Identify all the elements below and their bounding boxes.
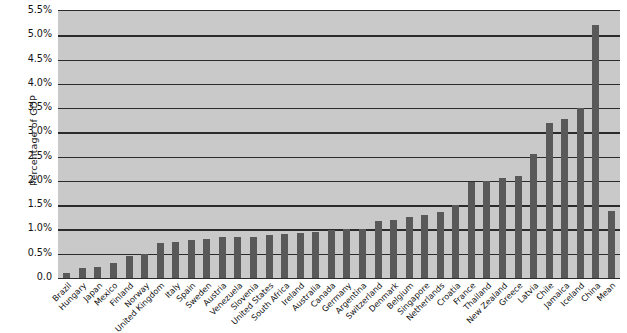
y-axis-tick-label: 2.0%	[28, 175, 52, 185]
y-axis-tick-label: 0.0	[37, 272, 52, 282]
bar[interactable]	[577, 108, 584, 278]
bar[interactable]	[437, 212, 444, 278]
bar[interactable]	[110, 263, 117, 278]
bar[interactable]	[281, 234, 288, 278]
bar[interactable]	[390, 220, 397, 278]
bar[interactable]	[530, 154, 537, 278]
bar-slot	[401, 11, 417, 278]
bar-slot	[386, 11, 402, 278]
bar[interactable]	[219, 237, 226, 278]
bar-slot	[479, 11, 495, 278]
bar[interactable]	[172, 242, 179, 278]
bar[interactable]	[546, 123, 553, 278]
y-axis-tick-label: 1.5%	[28, 199, 52, 209]
bar-slot	[152, 11, 168, 278]
y-axis-tick-label: 3.0%	[28, 127, 52, 137]
bar-slot	[59, 11, 75, 278]
bar[interactable]	[561, 119, 568, 278]
bar[interactable]	[483, 181, 490, 278]
bar[interactable]	[608, 211, 615, 278]
bar[interactable]	[157, 243, 164, 278]
bar[interactable]	[141, 254, 148, 278]
bar[interactable]	[421, 215, 428, 278]
bar-slot	[90, 11, 106, 278]
x-label-slot: Mean	[604, 279, 620, 333]
bar-slot	[215, 11, 231, 278]
bar-slot	[541, 11, 557, 278]
bar[interactable]	[203, 239, 210, 278]
bar[interactable]	[452, 205, 459, 278]
x-label-slot: Latvia	[526, 279, 542, 333]
bars-layer	[58, 11, 620, 278]
bar[interactable]	[250, 237, 257, 278]
x-label-slot: Iceland	[573, 279, 589, 333]
bar-slot	[230, 11, 246, 278]
x-label-slot: China	[588, 279, 604, 333]
bar[interactable]	[328, 230, 335, 278]
bar[interactable]	[126, 256, 133, 278]
bar-slot	[339, 11, 355, 278]
bar[interactable]	[266, 235, 273, 278]
bar-slot	[106, 11, 122, 278]
bar-slot	[370, 11, 386, 278]
x-label-slot: United Kingdom	[152, 279, 168, 333]
bar-slot	[526, 11, 542, 278]
bar[interactable]	[234, 237, 241, 278]
y-axis-tick-label: 4.0%	[28, 78, 52, 88]
y-axis-tick-label: 1.0%	[28, 224, 52, 234]
bar-slot	[199, 11, 215, 278]
y-axis-tick-label: 3.5%	[28, 102, 52, 112]
bar[interactable]	[343, 229, 350, 278]
bar-slot	[557, 11, 573, 278]
bar[interactable]	[79, 268, 86, 278]
bar[interactable]	[312, 232, 319, 278]
bar[interactable]	[375, 221, 382, 278]
plot-area	[58, 10, 620, 279]
bar-slot	[308, 11, 324, 278]
bar-slot	[324, 11, 340, 278]
bar[interactable]	[592, 25, 599, 278]
bar-slot	[184, 11, 200, 278]
bar-slot	[604, 11, 620, 278]
bar-slot	[75, 11, 91, 278]
bar-slot	[292, 11, 308, 278]
y-axis-tick-label: 2.5%	[28, 151, 52, 161]
bar[interactable]	[406, 217, 413, 278]
bar[interactable]	[359, 229, 366, 278]
y-axis-tick-labels: 5.5%5.0%4.5%4.0%3.5%3.0%2.5%2.0%1.5%1.0%…	[8, 0, 52, 290]
bar-slot	[121, 11, 137, 278]
x-axis-tick-labels: BrazilHungaryJapanMexicoFinlandNorwayUni…	[58, 279, 620, 333]
bar-slot	[168, 11, 184, 278]
bar[interactable]	[94, 267, 101, 278]
bar-slot	[246, 11, 262, 278]
bar[interactable]	[468, 182, 475, 278]
bar-chart: Percentage of GDP 5.5%5.0%4.5%4.0%3.5%3.…	[0, 0, 627, 333]
bar-slot	[573, 11, 589, 278]
bar-slot	[355, 11, 371, 278]
bar-slot	[433, 11, 449, 278]
bar-slot	[464, 11, 480, 278]
bar-slot	[495, 11, 511, 278]
bar[interactable]	[188, 240, 195, 278]
x-label-slot: Italy	[168, 279, 184, 333]
bar-slot	[588, 11, 604, 278]
bar-slot	[448, 11, 464, 278]
y-axis-tick-label: 4.5%	[28, 54, 52, 64]
y-axis-tick-label: 0.5%	[28, 248, 52, 258]
bar[interactable]	[297, 233, 304, 278]
x-label-slot: Greece	[510, 279, 526, 333]
y-axis-tick-label: 5.0%	[28, 29, 52, 39]
bar-slot	[137, 11, 153, 278]
bar-slot	[510, 11, 526, 278]
bar-slot	[261, 11, 277, 278]
x-label-slot: Hungary	[75, 279, 91, 333]
y-axis-tick-label: 5.5%	[28, 5, 52, 15]
bar-slot	[277, 11, 293, 278]
bar[interactable]	[515, 176, 522, 278]
bar[interactable]	[499, 178, 506, 278]
bar[interactable]	[63, 273, 70, 278]
bar-slot	[417, 11, 433, 278]
